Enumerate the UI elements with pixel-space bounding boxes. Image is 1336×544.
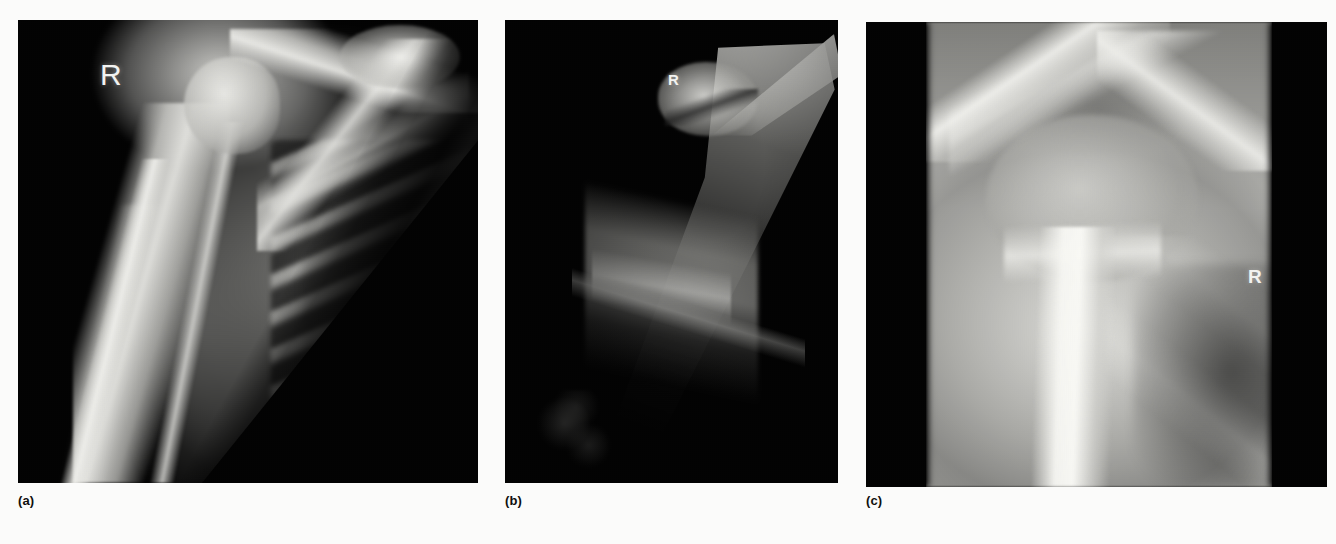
collimation-border-left xyxy=(866,22,926,487)
panel-caption-c: (c) xyxy=(866,494,882,507)
radiograph-panel-b: R xyxy=(505,20,838,483)
panel-caption-a: (a) xyxy=(18,494,34,507)
panel-caption-b: (b) xyxy=(505,494,522,507)
collimation-border-right xyxy=(1272,22,1327,487)
humeral-shaft-c xyxy=(1032,227,1115,487)
radiograph-panel-c: R xyxy=(866,22,1327,487)
underexposure-vignette xyxy=(505,20,838,483)
figure-root: R (a) R (b) R (c) xyxy=(0,0,1336,544)
axillary-dark-region xyxy=(1133,264,1290,487)
radiograph-panel-a: R xyxy=(18,20,478,483)
